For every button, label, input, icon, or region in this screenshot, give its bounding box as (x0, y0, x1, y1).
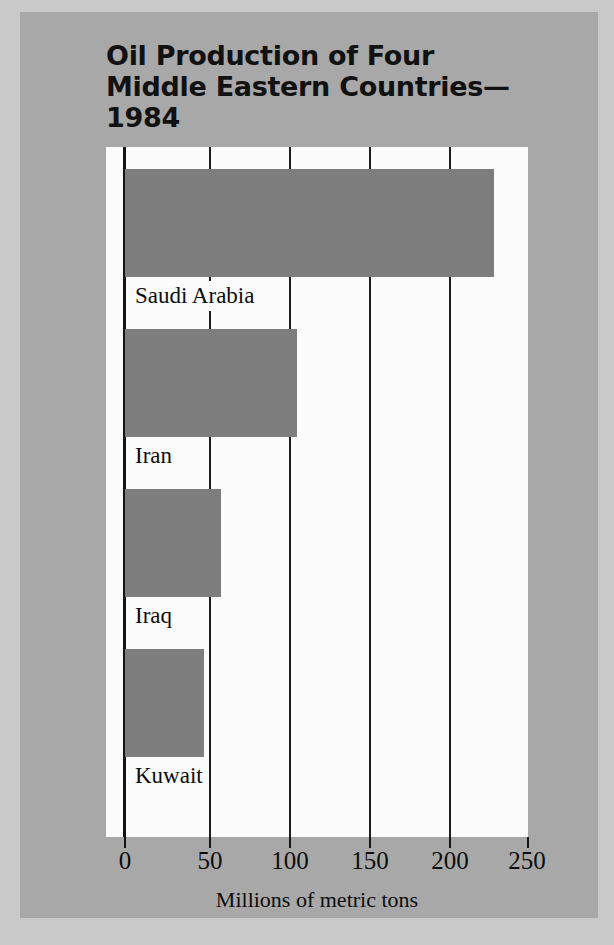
x-tick-label-200: 200 (431, 847, 469, 875)
bar-saudi-arabia[interactable] (125, 169, 494, 277)
x-tick-label-100: 100 (271, 847, 309, 875)
bars-layer: Saudi Arabia Iran Iraq Kuwait (106, 147, 528, 837)
chart-poster: Oil Production of Four Middle Eastern Co… (20, 12, 598, 918)
x-axis-label: Millions of metric tons (106, 887, 528, 913)
x-tick-label-250: 250 (508, 847, 546, 875)
bar-label-kuwait: Kuwait (133, 761, 209, 791)
x-tick-label-50: 50 (198, 847, 223, 875)
bar-iraq[interactable] (125, 489, 221, 597)
bar-label-saudi-arabia: Saudi Arabia (133, 281, 260, 311)
bar-label-iran: Iran (133, 441, 178, 471)
bar-iran[interactable] (125, 329, 297, 437)
x-tick-label-0: 0 (119, 847, 132, 875)
chart-title: Oil Production of Four Middle Eastern Co… (106, 40, 576, 133)
bar-label-iraq: Iraq (133, 601, 178, 631)
chart-plot-wrapper: Saudi Arabia Iran Iraq Kuwait 0 50 100 1… (106, 147, 528, 837)
bar-kuwait[interactable] (125, 649, 204, 757)
x-tick-label-150: 150 (351, 847, 389, 875)
